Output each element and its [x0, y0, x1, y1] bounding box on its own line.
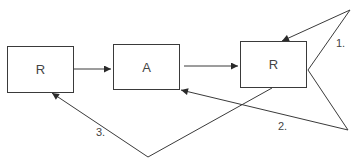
edge-label-3: 3.	[96, 126, 105, 138]
node-a-label: A	[142, 60, 151, 75]
edge-label-1: 1.	[336, 37, 345, 49]
diagram-canvas: R A R 1. 2. 3.	[0, 0, 359, 168]
node-a: A	[113, 44, 180, 90]
node-r-left: R	[7, 46, 74, 93]
node-r-right-label: R	[269, 57, 278, 72]
node-r-left-label: R	[36, 62, 45, 77]
node-r-right: R	[240, 41, 307, 88]
edge-label-2: 2.	[278, 120, 287, 132]
feedback-path-3	[52, 88, 272, 157]
